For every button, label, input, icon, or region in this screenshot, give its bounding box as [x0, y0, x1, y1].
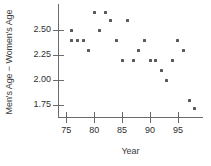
- x-tick-label: 75: [54, 126, 78, 135]
- y-axis-line: [58, 4, 59, 118]
- y-tick-2.25: [53, 55, 64, 56]
- data-point: [160, 69, 163, 72]
- data-point: [165, 79, 168, 82]
- y-tick-label: 1.75: [25, 100, 51, 109]
- data-point: [70, 39, 73, 42]
- x-tick-80: [94, 112, 95, 123]
- data-point: [121, 59, 124, 62]
- y-tick-label-wrap: 2.50: [23, 25, 51, 34]
- x-axis-label: Year: [58, 146, 203, 156]
- x-tick-75: [66, 112, 67, 123]
- data-point: [115, 39, 118, 42]
- data-point: [132, 59, 135, 62]
- data-point: [93, 11, 96, 14]
- data-point: [87, 49, 90, 52]
- data-point: [171, 59, 174, 62]
- x-tick-label: 95: [166, 126, 190, 135]
- x-tick-label: 80: [82, 126, 106, 135]
- x-tick-label: 90: [138, 126, 162, 135]
- data-point: [70, 29, 73, 32]
- y-tick-label-wrap: 2.00: [23, 75, 51, 84]
- y-tick-label: 2.00: [25, 75, 51, 84]
- data-point: [149, 59, 152, 62]
- data-point: [104, 11, 107, 14]
- y-tick-2.50: [53, 30, 64, 31]
- y-tick-label: 2.50: [25, 25, 51, 34]
- x-tick-95: [178, 112, 179, 123]
- data-point: [154, 59, 157, 62]
- data-point: [76, 39, 79, 42]
- y-tick-label-wrap: 1.75: [23, 100, 51, 109]
- data-point: [182, 49, 185, 52]
- data-point: [143, 39, 146, 42]
- y-tick-2.00: [53, 80, 64, 81]
- data-point: [188, 99, 191, 102]
- y-tick-1.75: [53, 105, 64, 106]
- x-tick-85: [122, 112, 123, 123]
- data-point: [137, 49, 140, 52]
- data-point: [98, 29, 101, 32]
- y-tick-label-wrap: 2.25: [23, 50, 51, 59]
- data-point: [126, 19, 129, 22]
- x-tick-label: 85: [110, 126, 134, 135]
- y-tick-label: 2.25: [25, 50, 51, 59]
- scatter-plot: Men's Age − Women's Age 2.502.252.001.75…: [0, 0, 211, 166]
- y-axis-label: Men's Age − Women's Age: [2, 2, 16, 122]
- data-point: [109, 19, 112, 22]
- data-point: [176, 39, 179, 42]
- data-point: [82, 39, 85, 42]
- x-tick-90: [150, 112, 151, 123]
- x-axis-line: [58, 117, 203, 118]
- data-point: [193, 107, 196, 110]
